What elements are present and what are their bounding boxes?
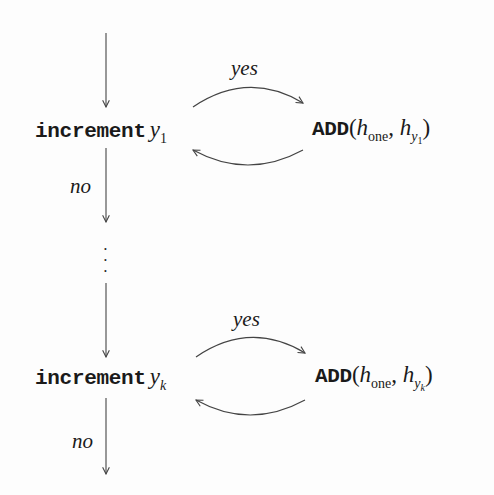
arg1-sub: one xyxy=(371,376,391,391)
open-paren: ( xyxy=(352,362,360,387)
add-action-stage-1: ADD(hone, hy1) xyxy=(312,116,430,140)
arg-h-one: hone xyxy=(357,115,389,140)
vertical-ellipsis: ••• xyxy=(104,244,107,277)
counter-variable: yk xyxy=(150,364,166,389)
arg2-sub-base: y xyxy=(411,129,417,144)
variable-base: y xyxy=(150,364,160,389)
yes-arrow-stage-1 xyxy=(193,87,303,107)
increment-node-stage-1: increment y1 xyxy=(35,118,167,142)
close-paren: ) xyxy=(425,362,433,387)
arg-h-y: hy1 xyxy=(400,115,423,140)
arg2-sub-sub: k xyxy=(421,382,425,393)
counter-variable: y1 xyxy=(150,117,167,142)
arg1-base: h xyxy=(360,362,372,387)
no-label-stage-1: no xyxy=(70,176,91,197)
arg1-base: h xyxy=(357,115,369,140)
add-op: ADD xyxy=(312,118,349,141)
arg1-sub: one xyxy=(368,129,388,144)
comma: , xyxy=(388,115,400,140)
increment-node-stage-k: increment yk xyxy=(35,365,166,389)
arg2-base: h xyxy=(403,362,415,387)
arg-h-one: hone xyxy=(360,362,392,387)
arg2-sub: y1 xyxy=(411,129,422,144)
arg2-base: h xyxy=(400,115,412,140)
increment-keyword: increment xyxy=(35,120,146,143)
open-paren: ( xyxy=(349,115,357,140)
yes-label-stage-1: yes xyxy=(231,58,258,79)
increment-keyword: increment xyxy=(35,367,146,390)
arg2-sub-sub: 1 xyxy=(418,135,423,146)
variable-subscript: k xyxy=(160,378,166,393)
arg2-sub: yk xyxy=(414,376,425,391)
return-arrow-stage-k xyxy=(196,400,305,415)
arg2-sub-base: y xyxy=(414,376,420,391)
variable-subscript: 1 xyxy=(160,131,167,146)
yes-arrow-stage-k xyxy=(196,337,305,357)
comma: , xyxy=(391,362,403,387)
return-arrow-stage-1 xyxy=(193,150,303,165)
arg-h-y: hyk xyxy=(403,362,425,387)
add-action-stage-k: ADD(hone, hyk) xyxy=(315,363,433,387)
no-label-stage-k: no xyxy=(72,431,93,452)
variable-base: y xyxy=(150,117,160,142)
close-paren: ) xyxy=(423,115,431,140)
add-op: ADD xyxy=(315,365,352,388)
yes-label-stage-k: yes xyxy=(233,309,260,330)
